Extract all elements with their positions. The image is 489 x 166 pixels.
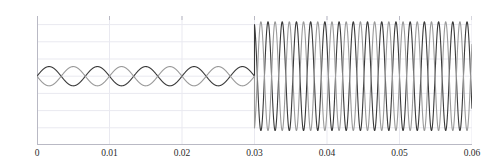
x-axis-tick-labels: 00.010.020.030.040.050.06 xyxy=(0,0,489,166)
x-tick-label: 0.04 xyxy=(319,149,336,159)
chart-container: 150100500-50-100-150-200 00.010.020.030.… xyxy=(0,0,489,166)
x-tick-label: 0 xyxy=(35,149,40,159)
x-tick-label: 0.01 xyxy=(101,149,118,159)
x-tick-label: 0.05 xyxy=(391,149,408,159)
x-tick-label: 0.06 xyxy=(464,149,481,159)
x-tick-label: 0.02 xyxy=(174,149,191,159)
x-tick-label: 0.03 xyxy=(246,149,263,159)
